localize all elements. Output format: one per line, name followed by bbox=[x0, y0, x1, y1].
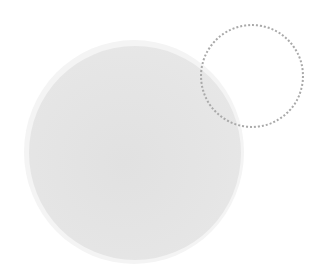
canvas bbox=[0, 0, 320, 279]
dotted-outline-circle bbox=[200, 24, 304, 128]
